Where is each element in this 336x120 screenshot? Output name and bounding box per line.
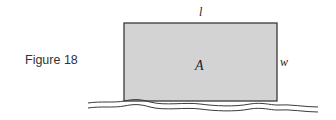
river-bank-line-bottom (88, 105, 318, 112)
area-label: A (194, 58, 204, 73)
width-label: w (280, 55, 288, 69)
length-label: l (199, 5, 203, 19)
rectangle-diagram: l w A (0, 0, 336, 120)
